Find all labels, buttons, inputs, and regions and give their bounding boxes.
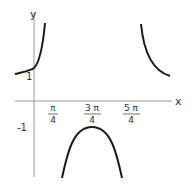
x-tick-5pi-4: 5 π 4 xyxy=(123,103,140,125)
x-tick-3pi-4: 3 π 4 xyxy=(84,103,101,125)
svg-text:4: 4 xyxy=(89,115,95,125)
curve-left-branch xyxy=(15,23,45,74)
y-tick-1: 1 xyxy=(26,71,32,82)
svg-text:4: 4 xyxy=(128,115,134,125)
y-axis-label: y xyxy=(30,8,37,21)
x-axis-label: x xyxy=(175,95,182,108)
x-tick-pi-4: π 4 xyxy=(48,104,58,125)
svg-text:4: 4 xyxy=(50,115,56,125)
svg-text:5 π: 5 π xyxy=(124,103,139,113)
chart: y x 1 -1 π 4 3 π 4 5 π 4 xyxy=(0,0,190,189)
svg-text:3 π: 3 π xyxy=(85,103,100,113)
y-tick-neg1: -1 xyxy=(17,122,27,133)
curve-middle-branch xyxy=(62,127,122,178)
curve-right-branch xyxy=(141,24,170,76)
svg-text:π: π xyxy=(51,104,56,113)
